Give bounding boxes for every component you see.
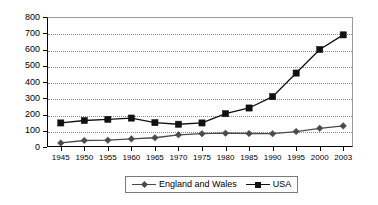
x-tick-label: 1950 bbox=[75, 154, 93, 162]
y-tick-label: 600 bbox=[25, 45, 40, 54]
gridlines bbox=[48, 18, 352, 146]
x-tick-label: 1965 bbox=[146, 154, 164, 162]
gridline bbox=[48, 51, 352, 52]
y-tick-label: 300 bbox=[25, 94, 40, 103]
x-tick-mark bbox=[202, 147, 203, 151]
x-tick-label: 1995 bbox=[287, 154, 305, 162]
y-tick-label: 400 bbox=[25, 78, 40, 87]
x-tick-label: 2000 bbox=[311, 154, 329, 162]
y-tick-label: 0 bbox=[35, 143, 40, 152]
legend-label: USA bbox=[273, 180, 292, 189]
y-tick-label: 800 bbox=[25, 13, 40, 22]
x-tick-mark bbox=[296, 147, 297, 151]
y-tick-label: 500 bbox=[25, 61, 40, 70]
x-tick-mark bbox=[108, 147, 109, 151]
y-tick-label: 200 bbox=[25, 110, 40, 119]
x-tick-mark bbox=[343, 147, 344, 151]
x-axis: 1945195019551960196519701975198019851990… bbox=[47, 147, 353, 169]
x-tick-mark bbox=[155, 147, 156, 151]
legend-label: England and Wales bbox=[159, 180, 237, 189]
x-tick-mark bbox=[273, 147, 274, 151]
x-tick-label: 2003 bbox=[334, 154, 352, 162]
line-chart: 0100200300400500600700800 19451950195519… bbox=[0, 0, 378, 205]
x-tick-label: 1970 bbox=[170, 154, 188, 162]
x-tick-mark bbox=[320, 147, 321, 151]
y-axis: 0100200300400500600700800 bbox=[0, 0, 47, 165]
gridline bbox=[48, 99, 352, 100]
legend-square-marker-icon bbox=[246, 180, 270, 189]
gridline bbox=[48, 67, 352, 68]
gridline bbox=[48, 132, 352, 133]
x-tick-mark bbox=[178, 147, 179, 151]
plot-area bbox=[47, 17, 353, 147]
legend-entry-england-and-wales[interactable]: England and Wales bbox=[132, 180, 237, 189]
legend-entry-usa[interactable]: USA bbox=[246, 180, 292, 189]
gridline bbox=[48, 34, 352, 35]
x-tick-mark bbox=[84, 147, 85, 151]
x-tick-mark bbox=[226, 147, 227, 151]
x-tick-label: 1980 bbox=[217, 154, 235, 162]
x-tick-label: 1960 bbox=[122, 154, 140, 162]
x-tick-label: 1985 bbox=[240, 154, 258, 162]
x-tick-mark bbox=[249, 147, 250, 151]
gridline bbox=[48, 83, 352, 84]
x-tick-label: 1975 bbox=[193, 154, 211, 162]
gridline bbox=[48, 116, 352, 117]
chart-legend: England and WalesUSA bbox=[125, 176, 298, 193]
x-tick-label: 1945 bbox=[52, 154, 70, 162]
y-tick-label: 100 bbox=[25, 126, 40, 135]
x-tick-mark bbox=[131, 147, 132, 151]
x-tick-label: 1955 bbox=[99, 154, 117, 162]
y-tick-label: 700 bbox=[25, 29, 40, 38]
x-tick-label: 1990 bbox=[264, 154, 282, 162]
x-tick-mark bbox=[61, 147, 62, 151]
legend-diamond-marker-icon bbox=[132, 180, 156, 189]
